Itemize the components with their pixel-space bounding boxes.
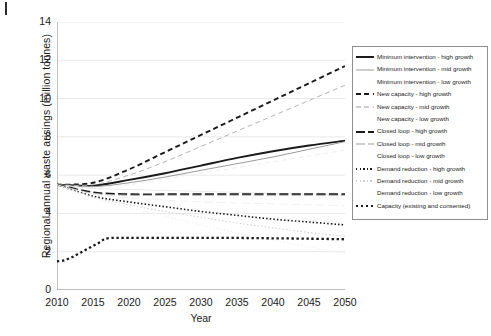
legend-label: Closed loop - high growth	[377, 128, 447, 134]
x-tick-label: 2010	[37, 296, 77, 308]
legend-swatch	[356, 65, 374, 75]
series-line	[57, 185, 345, 225]
legend-swatch	[356, 89, 374, 99]
legend-item: Closed loop - high growth	[356, 125, 484, 137]
legend-label: Minimum intervention - mid growth	[377, 66, 472, 72]
page-corner-mark	[5, 2, 7, 15]
legend-item: Minimum intervention - mid growth	[356, 63, 484, 75]
legend-swatch	[356, 201, 374, 211]
series-line	[57, 142, 345, 187]
legend-label: New capacity - high growth	[377, 91, 451, 97]
y-tick-label: 12	[25, 53, 51, 65]
legend-swatch	[356, 139, 374, 149]
x-tick-label: 2035	[217, 296, 257, 308]
legend-item: Minimum intervention - high growth	[356, 51, 484, 63]
legend-label: Demand reduction - mid growth	[377, 178, 463, 184]
series-line	[57, 238, 345, 261]
legend-label: Minimum intervention - low growth	[377, 79, 471, 85]
y-tick-label: 0	[25, 283, 51, 295]
chart-legend: Minimum intervention - high growthMinimu…	[352, 46, 488, 220]
y-tick-label: 6	[25, 168, 51, 180]
legend-swatch	[356, 102, 374, 112]
legend-swatch	[356, 127, 374, 137]
legend-item: Closed loop - mid growth	[356, 138, 484, 150]
legend-swatch	[356, 77, 374, 87]
series-canvas	[57, 22, 345, 290]
y-tick-label: 10	[25, 92, 51, 104]
x-tick-label: 2020	[109, 296, 149, 308]
legend-label: Closed loop - low growth	[377, 153, 445, 159]
legend-item: New capacity - low growth	[356, 113, 484, 125]
legend-swatch	[356, 164, 374, 174]
legend-item: Closed loop - low growth	[356, 150, 484, 162]
x-tick-label: 2050	[325, 296, 365, 308]
legend-label: Demand reduction - low growth	[377, 190, 463, 196]
plot-area	[57, 22, 345, 290]
x-tick-label: 2015	[73, 296, 113, 308]
legend-item: Minimum intervention - low growth	[356, 76, 484, 88]
legend-label: Capacity (existing and consented)	[377, 203, 470, 209]
legend-item: New capacity - high growth	[356, 88, 484, 100]
y-tick-label: 2	[25, 245, 51, 257]
y-tick-label: 8	[25, 130, 51, 142]
legend-label: New capacity - low growth	[377, 116, 449, 122]
legend-label: Closed loop - mid growth	[377, 141, 445, 147]
chart-figure: Regional annual waste arisings (million …	[0, 0, 491, 336]
x-tick-label: 2040	[253, 296, 293, 308]
legend-label: Minimum intervention - high growth	[377, 54, 473, 60]
legend-label: New capacity - mid growth	[377, 104, 450, 110]
y-axis-title: Regional annual waste arisings (million …	[40, 11, 52, 281]
legend-label: Demand reduction - high growth	[377, 166, 465, 172]
legend-swatch	[356, 114, 374, 124]
x-tick-label: 2025	[145, 296, 185, 308]
series-line	[57, 141, 345, 186]
legend-swatch	[356, 188, 374, 198]
x-tick-label: 2045	[289, 296, 329, 308]
legend-swatch	[356, 176, 374, 186]
legend-swatch	[356, 52, 374, 62]
legend-item: Capacity (existing and consented)	[356, 200, 484, 212]
legend-item: Demand reduction - high growth	[356, 163, 484, 175]
series-line	[57, 150, 345, 187]
y-tick-label: 14	[25, 15, 51, 27]
x-tick-label: 2030	[181, 296, 221, 308]
y-tick-label: 4	[25, 206, 51, 218]
series-line	[57, 66, 345, 185]
legend-item: New capacity - mid growth	[356, 101, 484, 113]
legend-swatch	[356, 151, 374, 161]
legend-item: Demand reduction - mid growth	[356, 175, 484, 187]
legend-item: Demand reduction - low growth	[356, 187, 484, 199]
x-axis-title: Year	[57, 312, 345, 324]
